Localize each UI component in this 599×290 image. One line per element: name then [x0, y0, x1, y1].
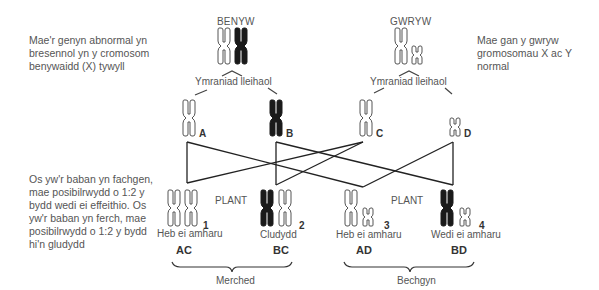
note-line: yw'r baban yn ferch, mae — [29, 212, 153, 225]
child-2-chromosomes — [261, 190, 291, 226]
note-abnormal-gene: Mae'r genyn abnormal yn bresennol yn y c… — [29, 34, 149, 73]
gamete-c-chromosome — [360, 100, 372, 136]
gamete-b-chromosome — [270, 100, 282, 136]
offspring-header-left: PLANT — [215, 195, 247, 206]
note-line: gromosomau X ac Y normal — [477, 47, 599, 73]
child-1-genotype: AC — [176, 244, 192, 256]
note-line: Mae'r genyn abnormal yn — [29, 34, 149, 47]
gamete-b-label: B — [286, 128, 293, 139]
gamete-d-label: D — [464, 128, 471, 139]
female-label: BENYW — [217, 16, 255, 27]
note-line: mae posibilrwydd o 1:2 y — [29, 186, 153, 199]
meiosis-label-female: Ymraniad lleihaol — [195, 76, 272, 87]
child-2-status: Cludydd — [260, 229, 297, 240]
note-line: bresennol yn y cromosom — [29, 47, 149, 60]
note-line: Mae gan y gwryw — [477, 34, 599, 47]
female-chromosome-x-normal — [218, 28, 230, 64]
male-chromosome-x — [395, 28, 407, 64]
gamete-d-chromosome — [450, 118, 460, 136]
child-1-status: Heb ei amharu — [157, 228, 223, 239]
child-4-status: Wedi ei amharu — [431, 229, 501, 240]
gamete-a-chromosome — [183, 100, 195, 136]
cross-lines — [187, 142, 453, 187]
note-line: benywaidd (X) tywyll — [29, 60, 149, 73]
offspring-header-right: PLANT — [391, 195, 423, 206]
gamete-a-label: A — [199, 128, 206, 139]
child-2-genotype: BC — [273, 244, 289, 256]
note-line: posibilrwydd o 1:2 y bydd — [29, 225, 153, 238]
child-2-number: 2 — [299, 220, 305, 231]
group-brackets — [172, 262, 474, 272]
child-4-chromosomes — [441, 190, 470, 226]
male-chromosome-y — [412, 46, 422, 64]
meiosis-label-male: Ymraniad lleihaol — [370, 76, 447, 87]
note-line: bydd wedi ei effeithio. Os — [29, 199, 153, 212]
note-male-normal: Mae gan y gwryw gromosomau X ac Y normal — [477, 34, 599, 73]
group-daughters-label: Merched — [216, 275, 255, 286]
group-sons-label: Bechgyn — [397, 275, 436, 286]
child-3-status: Heb ei amharu — [336, 229, 402, 240]
note-probability: Os yw'r baban yn fachgen, mae posibilrwy… — [29, 173, 153, 251]
child-1-chromosomes — [168, 190, 197, 226]
child-3-genotype: AD — [356, 244, 372, 256]
note-line: Os yw'r baban yn fachgen, — [29, 173, 153, 186]
child-3-chromosomes — [345, 190, 373, 226]
male-label: GWRYW — [390, 16, 431, 27]
child-4-genotype: BD — [451, 244, 467, 256]
female-chromosome-x-abnormal — [235, 28, 247, 64]
gamete-c-label: C — [376, 128, 383, 139]
note-line: hi'n gludydd — [29, 238, 153, 251]
